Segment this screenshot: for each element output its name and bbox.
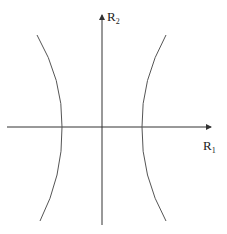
horizontal-axis-label-subscript: 1	[212, 146, 216, 155]
vertical-axis-label: R2	[107, 10, 120, 26]
vertical-axis-label-subscript: 2	[116, 17, 120, 26]
horizontal-axis-label-main: R	[203, 138, 212, 153]
hyperbola-diagram	[0, 0, 227, 234]
vertical-axis-label-main: R	[107, 9, 116, 24]
horizontal-axis-label: R1	[203, 139, 216, 155]
left-hyperbola-branch	[37, 35, 62, 221]
right-hyperbola-branch	[142, 35, 166, 221]
